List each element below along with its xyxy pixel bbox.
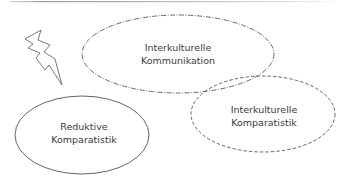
label-line: Komparatistik	[231, 116, 298, 129]
lightning-bolt-icon	[25, 30, 62, 85]
label-line: Komparatistik	[51, 133, 117, 146]
top-rule	[10, 1, 340, 2]
label-line: Interkulturelle	[231, 103, 298, 116]
label-line: Interkulturelle	[141, 41, 215, 54]
label-reduktive-komparatistik: Reduktive Komparatistik	[51, 120, 117, 146]
label-line: Kommunikation	[141, 54, 215, 67]
diagram-svg	[0, 0, 350, 181]
label-interkulturelle-kommunikation: Interkulturelle Kommunikation	[141, 41, 215, 67]
label-interkulturelle-komparatistik: Interkulturelle Komparatistik	[231, 103, 298, 129]
label-line: Reduktive	[51, 120, 117, 133]
diagram-canvas: Interkulturelle Kommunikation Interkultu…	[0, 0, 350, 181]
